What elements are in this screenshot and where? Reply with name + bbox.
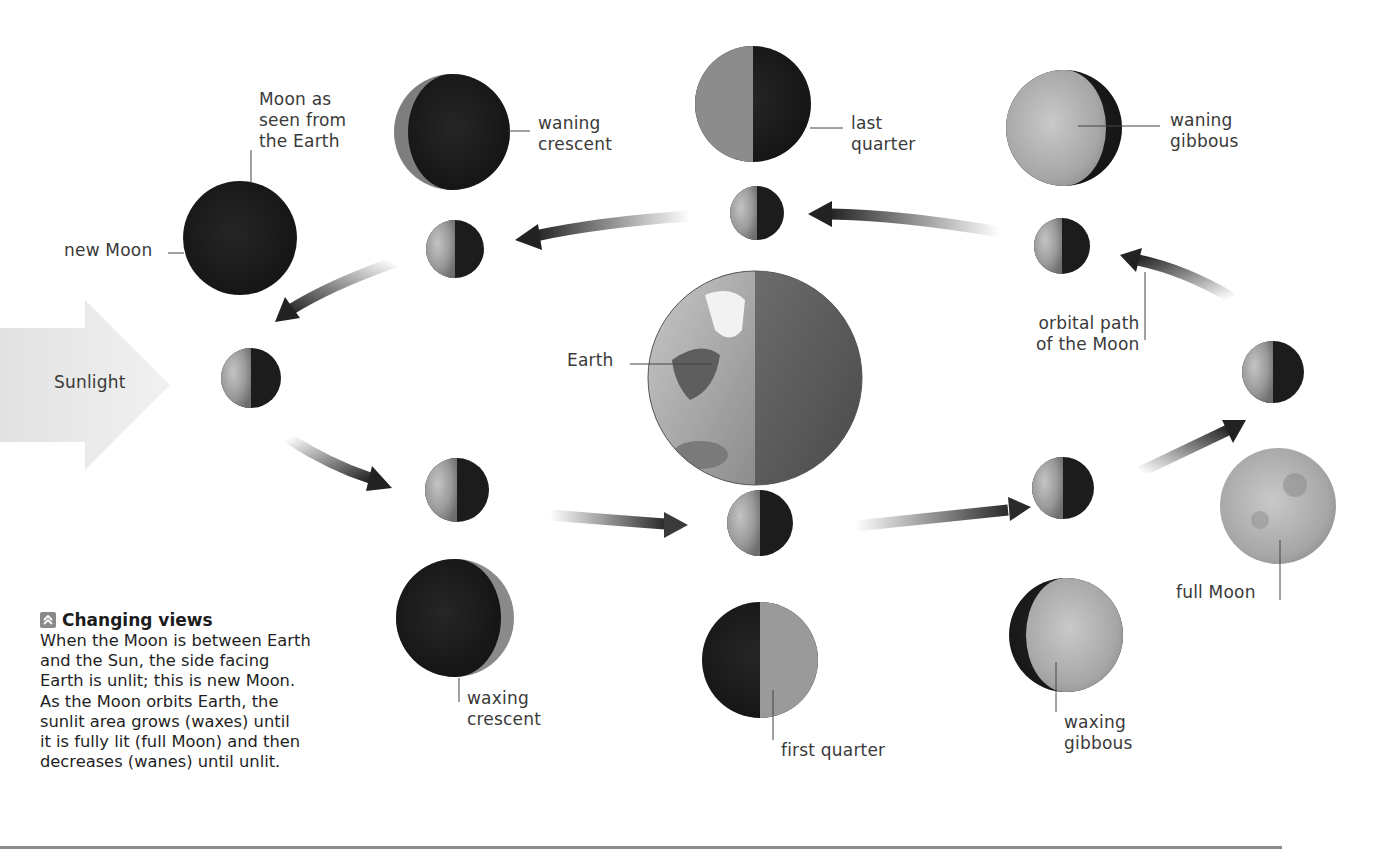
- waning-gibbous-label: waning gibbous: [1170, 110, 1239, 152]
- first-quarter-label: first quarter: [781, 740, 885, 761]
- phase-waxing-crescent: [396, 559, 514, 677]
- caption-box: Changing views When the Moon is between …: [40, 610, 360, 772]
- phase-waxing-gibbous: [1009, 578, 1123, 692]
- orbit-moon-bottom-right: [1032, 457, 1094, 519]
- caption-heading: Changing views: [40, 610, 360, 630]
- waxing-gibbous-label: waxing gibbous: [1064, 712, 1133, 754]
- orbit-moon-top: [730, 186, 784, 240]
- caption-body: When the Moon is between Earth and the S…: [40, 631, 360, 772]
- orbit-arrow-top-right: [808, 201, 1000, 232]
- orbit-arrow-bottom-left: [550, 512, 688, 538]
- orbit-arrow-bottom-right: [855, 497, 1031, 526]
- orbit-arrow-top-left: [515, 216, 690, 250]
- earth-globe: [648, 271, 862, 485]
- phase-new-moon: [183, 181, 297, 295]
- bottom-divider: [0, 846, 1282, 849]
- phase-waning-gibbous: [1006, 70, 1122, 186]
- sunlight-label: Sunlight: [54, 372, 126, 393]
- orbit-moon-bottom-left: [425, 458, 489, 522]
- new-moon-label: new Moon: [64, 240, 152, 261]
- waning-crescent-label: waning crescent: [538, 113, 612, 155]
- earth-label: Earth: [567, 350, 614, 371]
- double-chevron-up-icon: [40, 612, 56, 628]
- orbit-arrow-upper-left: [275, 262, 395, 322]
- phase-first-quarter: [702, 602, 818, 718]
- orbit-moon-top-right: [1034, 218, 1090, 274]
- orbit-moon-left: [221, 348, 281, 408]
- orbit-arrow-upper-right: [1120, 248, 1232, 298]
- orbit-moon-right: [1242, 341, 1304, 403]
- moon-phases-diagram: Sunlight Moon as seen from the Earth new…: [0, 0, 1376, 857]
- orbit-arrow-lower-right: [1140, 420, 1246, 472]
- phase-waning-crescent: [394, 74, 510, 190]
- caption-title: Changing views: [62, 610, 213, 630]
- last-quarter-label: last quarter: [851, 113, 916, 155]
- phase-full-moon: [1220, 448, 1336, 564]
- waxing-crescent-label: waxing crescent: [467, 688, 541, 730]
- orbit-arrow-lower-left: [288, 438, 392, 491]
- full-moon-label: full Moon: [1176, 582, 1256, 603]
- orbit-moon-bottom: [727, 490, 793, 556]
- orbital-path-label: orbital path of the Moon: [1036, 313, 1140, 355]
- phase-last-quarter: [695, 46, 811, 162]
- seen-from-earth-label: Moon as seen from the Earth: [259, 89, 346, 152]
- orbit-moon-top-left: [426, 220, 484, 278]
